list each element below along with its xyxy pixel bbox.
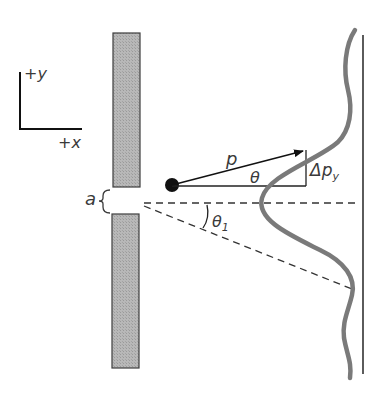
theta1-label: θ1 [212,214,229,233]
barrier-upper [113,33,140,187]
diffraction-diagram: +y +x a p θ Δpy θ1 [0,0,383,397]
delta-subscript: y [332,170,339,183]
momentum-vector-arrow [172,151,303,185]
diagram-graphics [0,0,383,397]
theta-label: θ [250,170,260,186]
delta-py-label: Δpy [310,162,339,182]
delta-p-text: Δp [310,160,332,180]
theta1-text: θ [212,212,222,231]
momentum-label: p [226,150,237,168]
first-minimum-dashed [144,206,352,289]
barrier-lower [112,214,139,368]
x-axis-label: +x [58,135,81,151]
y-axis-label: +y [24,66,47,82]
theta1-subscript: 1 [222,221,229,234]
slit-width-brace [99,190,110,213]
theta1-arc [203,205,208,228]
intensity-pattern-curve [261,30,355,378]
slit-width-label: a [85,190,96,208]
